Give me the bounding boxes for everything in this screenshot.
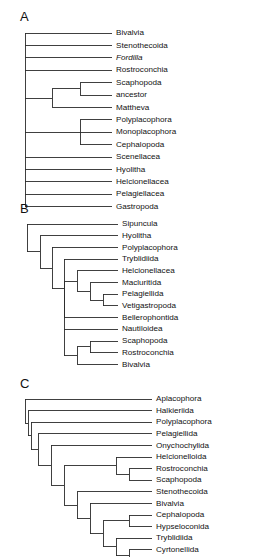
panel-b-tree: SipunculaHyolithaPolyplacophoraTryblidii… (0, 196, 254, 372)
tip-label: Polyplacophora (122, 243, 178, 252)
tip-label: Bellerophontida (122, 313, 179, 322)
tip-label: Hyolitha (122, 231, 152, 240)
tip-label: Rostroconchia (116, 65, 168, 74)
tip-label: Cephalopoda (116, 140, 165, 149)
cladogram-figure: A BivalviaStenothecoidaFordillaRostrocon… (0, 0, 254, 557)
tip-label: Stenothecoida (116, 41, 168, 50)
tip-label: Bivalvia (122, 360, 150, 369)
tip-label: Sipuncula (122, 219, 158, 228)
tip-label: Onychochylida (156, 441, 210, 450)
panel-c: C AplacophoraHalkieriidaPolyplacophoraPe… (0, 372, 254, 557)
tip-label: Pelagiellida (156, 429, 198, 438)
panel-c-tree: AplacophoraHalkieriidaPolyplacophoraPela… (0, 372, 254, 557)
panel-a-tree: BivalviaStenothecoidaFordillaRostroconch… (0, 0, 254, 196)
tip-label: Scaphopoda (156, 475, 202, 484)
tip-label: Vetigastropoda (122, 301, 176, 310)
tip-label: Hyolitha (116, 165, 146, 174)
tip-label: ancestor (116, 90, 147, 99)
tip-label: Fordilla (116, 53, 143, 62)
tip-label: Mattheva (116, 103, 150, 112)
tip-label: Helcionellacea (116, 177, 169, 186)
tip-label: Polyplacophora (156, 417, 212, 426)
tip-label: Polyplacophora (116, 115, 172, 124)
tip-label: Bivalvia (116, 28, 144, 37)
tip-label: Scenellacea (116, 152, 161, 161)
tip-label: Rostroconchia (156, 464, 208, 473)
tip-label: Pelagiellida (122, 289, 164, 298)
tip-label: Aplacophora (156, 394, 202, 403)
tip-label: Scaphopoda (116, 78, 162, 87)
tip-label: Halkieriida (156, 406, 194, 415)
tip-label: Tryblidiida (156, 533, 193, 542)
tip-label: Helcionellacea (122, 266, 175, 275)
tip-label: Helcionelloida (156, 452, 207, 461)
tip-label: Hypseloconida (156, 522, 210, 531)
tip-label: Tryblidiida (122, 254, 159, 263)
panel-b: B SipunculaHyolithaPolyplacophoraTryblid… (0, 196, 254, 372)
tip-label: Nautiloidea (122, 324, 163, 333)
tip-label: Macluritida (122, 278, 162, 287)
panel-a: A BivalviaStenothecoidaFordillaRostrocon… (0, 0, 254, 196)
tip-label: Bivalvia (156, 499, 184, 508)
tip-label: Scaphopoda (122, 336, 168, 345)
tip-label: Rostroconchia (122, 348, 174, 357)
tip-label: Monoplacophora (116, 127, 177, 136)
tip-label: Stenothecoida (156, 487, 208, 496)
tip-label: Cephalopoda (156, 510, 205, 519)
tip-label: Cyrtonellida (156, 545, 199, 554)
